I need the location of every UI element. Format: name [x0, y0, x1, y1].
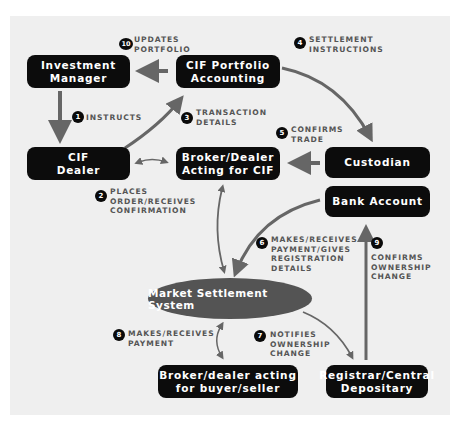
node-label: Depositary: [341, 382, 414, 395]
node-label: Custodian: [344, 156, 411, 169]
node-label: Bank Account: [332, 195, 423, 208]
node-label: Registrar/Central: [319, 369, 435, 382]
node-label: Acting for CIF: [182, 164, 274, 177]
step-label-confirms-ownership-change: CONFIRMS OWNERSHIP CHANGE: [371, 253, 432, 282]
step-label-instructs: INSTRUCTS: [86, 113, 142, 123]
node-bank-account: Bank Account: [325, 186, 430, 217]
node-label: Dealer: [57, 164, 101, 177]
node-registrar-central-depositary: Registrar/Central Depositary: [326, 365, 428, 398]
step-badge-9: 9: [371, 237, 383, 249]
step-badge-3: 3: [181, 112, 193, 124]
step-badge-2: 2: [95, 190, 107, 202]
step-label-makes-receives-payment: MAKES/RECEIVES PAYMENT: [128, 329, 215, 348]
step-badge-5: 5: [276, 127, 288, 139]
step-label-places-order: PLACES ORDER/RECEIVES CONFIRMATION: [110, 187, 196, 216]
node-label: CIF: [68, 151, 89, 164]
step-badge-10: 10: [119, 38, 133, 50]
step-label-makes-receives-payment-registration: MAKES/RECEIVES PAYMENT/GIVES REGISTRATIO…: [271, 235, 358, 273]
step-label-updates-portfolio: UPDATES PORTFOLIO: [134, 35, 191, 54]
node-label: CIF Portfolio: [186, 59, 270, 72]
step-label-settlement-instructions: SETTLEMENT INSTRUCTIONS: [309, 35, 384, 54]
node-broker-dealer-buyer-seller: Broker/dealer acting for buyer/seller: [158, 365, 298, 398]
node-label: Market Settlement System: [148, 287, 312, 311]
step-badge-1: 1: [72, 111, 84, 123]
node-investment-manager: Investment Manager: [27, 55, 130, 88]
node-market-settlement-system: Market Settlement System: [148, 278, 312, 319]
node-cif-dealer: CIF Dealer: [27, 147, 130, 180]
step-label-transaction-details: TRANSACTION DETAILS: [196, 108, 267, 127]
step-badge-7: 7: [254, 330, 266, 342]
step-badge-4: 4: [294, 37, 306, 49]
node-label: Broker/Dealer: [182, 151, 274, 164]
step-label-notifies-ownership-change: NOTIFIES OWNERSHIP CHANGE: [270, 330, 331, 359]
step-label-confirms-trade: CONFIRMS TRADE: [291, 125, 343, 144]
arrow-broker-market: [217, 189, 224, 271]
node-label: for buyer/seller: [176, 382, 280, 395]
arrow-places-order: [139, 160, 166, 163]
node-label: Manager: [50, 72, 108, 85]
node-label: Accounting: [191, 72, 265, 85]
step-badge-8: 8: [113, 329, 125, 341]
node-custodian: Custodian: [325, 147, 430, 178]
node-label: Broker/dealer acting: [159, 369, 296, 382]
node-broker-dealer-cif: Broker/Dealer Acting for CIF: [176, 147, 280, 180]
arrow-transaction-details: [125, 100, 180, 148]
node-cif-portfolio-accounting: CIF Portfolio Accounting: [176, 55, 280, 88]
step-badge-6: 6: [256, 237, 268, 249]
node-label: Investment: [41, 59, 116, 72]
arrow-makes-receives-payment: [217, 326, 222, 357]
